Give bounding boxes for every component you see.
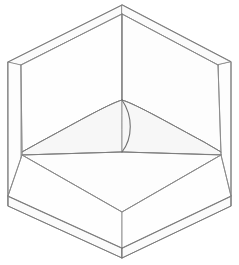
figure-root: Isometric filleted inside corner Axonome… <box>0 0 239 265</box>
isometric-corner-drawing <box>0 0 239 265</box>
